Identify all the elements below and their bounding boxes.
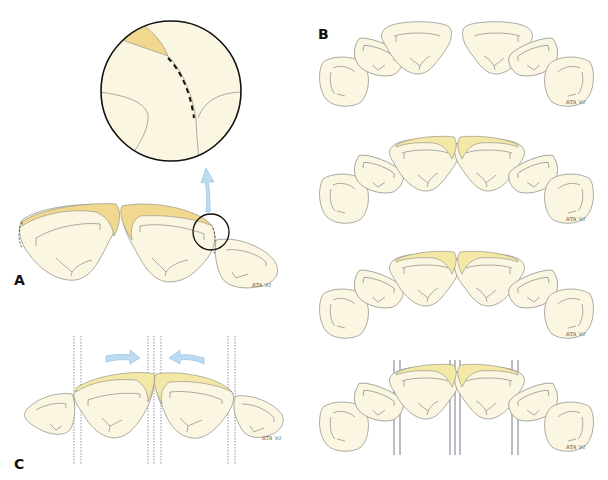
tooth-a-right — [121, 204, 216, 282]
tooth-c-left-central — [74, 373, 155, 438]
tooth-c-right-lateral — [234, 396, 283, 438]
tooth-c-left-lateral — [25, 394, 75, 435]
panel-a: RTA '91 — [19, 21, 278, 288]
arrow-right-icon — [106, 350, 140, 364]
magnified-inset — [100, 21, 245, 170]
arch-row-2: RTA '91 — [320, 136, 594, 223]
signature-a: RTA '91 — [251, 282, 272, 288]
arch-row-1: RTA '91 — [320, 22, 594, 107]
signature-b: RTA '91 — [565, 216, 586, 222]
panel-c: RTA '91 — [25, 336, 284, 465]
signature-b: RTA '91 — [565, 444, 586, 450]
arch-row-4: RTA '91 — [320, 360, 594, 455]
signature-c: RTA '91 — [261, 435, 282, 441]
tooth-a-lateral — [215, 239, 277, 288]
signature-b: RTA '91 — [565, 99, 586, 105]
tooth-c-right-central — [154, 373, 233, 438]
signature-b: RTA '91 — [565, 331, 586, 337]
panel-b: RTA '91RTA '91RTA '91RTA '91 — [320, 22, 594, 455]
magnify-arrow-icon — [201, 168, 214, 212]
dental-illustration: RTA '91 RTA '91RTA '91RTA '91RTA '91 — [0, 0, 608, 480]
arrow-left-icon — [169, 350, 204, 364]
tooth-a-left — [19, 204, 120, 281]
arch-row-3: RTA '91 — [320, 251, 594, 338]
